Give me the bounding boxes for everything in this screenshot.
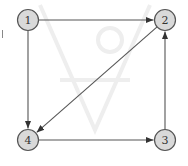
directed-graph-diagram: 1234 bbox=[0, 0, 188, 166]
node-3: 3 bbox=[155, 130, 176, 151]
node-label: 4 bbox=[25, 134, 32, 147]
node-4: 4 bbox=[18, 130, 39, 151]
node-label: 2 bbox=[162, 14, 169, 27]
node-label: 1 bbox=[25, 14, 32, 27]
node-1: 1 bbox=[18, 10, 39, 31]
node-label: 3 bbox=[162, 134, 169, 147]
node-2: 2 bbox=[155, 10, 176, 31]
background-watermark bbox=[40, 5, 150, 130]
